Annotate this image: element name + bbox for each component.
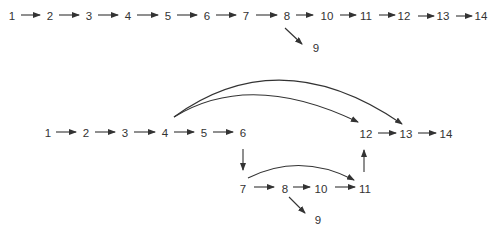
node-14: 14: [475, 10, 488, 22]
node-1: 1: [45, 127, 51, 139]
node-8: 8: [284, 10, 290, 22]
node-11: 11: [360, 10, 372, 22]
node-1: 1: [9, 10, 15, 22]
node-12: 12: [398, 10, 411, 22]
node-8: 8: [282, 183, 288, 195]
node-9: 9: [313, 42, 319, 54]
node-3: 3: [122, 127, 128, 139]
node-5: 5: [165, 10, 171, 22]
node-5: 5: [201, 127, 207, 139]
node-3: 3: [86, 10, 92, 22]
flow-diagram: 12345678101112131491234561213147810119: [0, 0, 496, 231]
arrow-7-to-11: [248, 165, 354, 180]
node-6: 6: [240, 127, 246, 139]
node-7: 7: [240, 183, 246, 195]
node-10: 10: [321, 10, 334, 22]
arrow-4-to-13: [174, 80, 402, 124]
arrow-8-to-9: [289, 197, 305, 213]
linear-sequence-nodes: 1234567810111213149: [9, 10, 488, 54]
node-2: 2: [83, 127, 89, 139]
nodes-layer: 12345678101112131491234561213147810119: [9, 10, 488, 226]
node-13: 13: [437, 10, 450, 22]
node-6: 6: [204, 10, 210, 22]
network-with-parallel-paths-nodes: 1234561213147810119: [45, 127, 453, 226]
node-2: 2: [47, 10, 53, 22]
node-9: 9: [315, 214, 321, 226]
node-4: 4: [125, 10, 132, 22]
edges-layer: [21, 15, 472, 213]
arrow-4-to-12: [174, 95, 358, 122]
arrow-8-to-9: [285, 28, 302, 44]
node-14: 14: [440, 128, 453, 140]
diagram-canvas: 12345678101112131491234561213147810119: [0, 0, 496, 231]
node-13: 13: [400, 128, 413, 140]
node-12: 12: [360, 128, 373, 140]
node-10: 10: [315, 183, 328, 195]
node-4: 4: [162, 127, 169, 139]
node-11: 11: [359, 183, 371, 195]
node-7: 7: [243, 10, 249, 22]
